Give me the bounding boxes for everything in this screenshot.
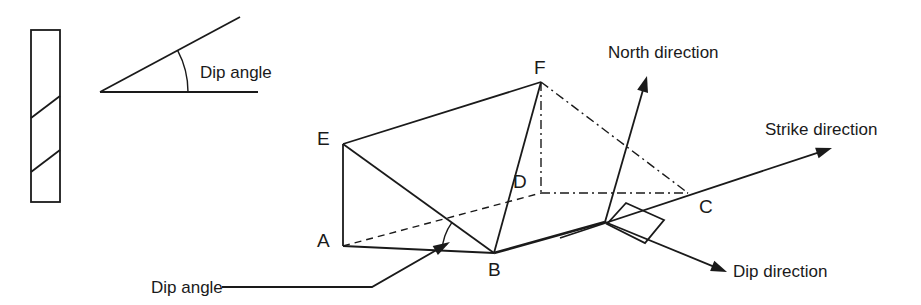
block-edge-ad [343, 193, 541, 246]
dip-angle-arc [178, 50, 188, 92]
dip-direction-label: Dip direction [733, 262, 828, 281]
diagram-canvas: Dip angle ABCDEF Dip angle North directi… [0, 0, 921, 305]
block-hidden-dashdot-edges [541, 82, 688, 193]
edge-b-to-origin [494, 222, 605, 253]
geology-dip-strike-diagram: Dip angle ABCDEF Dip angle North directi… [0, 0, 921, 305]
dip-angle-callout-label: Dip angle [151, 278, 223, 297]
block-edge-ef [343, 82, 541, 144]
core-sample-outline [31, 30, 60, 202]
dip-direction-arrowhead-icon [710, 261, 727, 272]
dip-angle-inset-label: Dip angle [200, 63, 272, 82]
strike-direction-label: Strike direction [765, 120, 877, 139]
strike-direction-line [560, 152, 820, 238]
dip-direction-line [605, 222, 715, 267]
dip-angle-inset-group: Dip angle [100, 17, 272, 92]
north-direction-arrowhead-icon [637, 76, 648, 93]
block-hidden-dashed-edges [343, 193, 541, 246]
direction-vector-labels: North directionStrike directionDip direc… [608, 43, 877, 281]
vertex-label-b: B [488, 259, 501, 280]
callout-arrowhead-icon [433, 242, 450, 255]
vertex-label-f: F [534, 57, 546, 78]
strike-direction-arrowhead-icon [815, 148, 832, 159]
bedding-plane-line [31, 150, 60, 172]
vertex-label-d: D [513, 171, 527, 192]
perpendicular-marker [607, 203, 664, 243]
core-sample-group [31, 30, 60, 202]
block-edge-eb [343, 144, 494, 253]
block-visible-edges [343, 82, 541, 253]
direction-vectors-group [560, 76, 832, 272]
vertex-label-c: C [699, 196, 713, 217]
vertex-label-a: A [317, 230, 330, 251]
vertex-label-e: E [317, 128, 330, 149]
block-edge-fc [541, 82, 688, 193]
dip-angle-callout-group: Dip angle [151, 223, 452, 297]
callout-leader-line [222, 244, 447, 287]
block-edge-fb [494, 82, 541, 253]
north-direction-label: North direction [608, 43, 719, 62]
block-edge-ab [343, 246, 494, 253]
block-group: ABCDEF [317, 57, 713, 280]
bedding-plane-line [31, 96, 60, 118]
